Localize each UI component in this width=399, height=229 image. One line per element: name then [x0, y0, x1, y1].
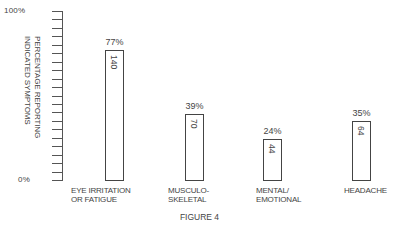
y-tick	[52, 172, 63, 173]
category-label-2: MENTAL/ EMOTIONAL	[256, 186, 301, 204]
bar-count-label: 64	[356, 126, 366, 135]
bar: 64	[352, 121, 371, 181]
category-label-0: EYE IRRITATION OR FATIGUE	[71, 186, 131, 204]
figure-caption: FIGURE 4	[0, 212, 399, 222]
y-tick	[52, 146, 63, 147]
bar-percent-label: 77%	[95, 37, 135, 47]
y-tick	[52, 53, 63, 54]
y-tick	[52, 121, 63, 122]
y-tick	[52, 87, 63, 88]
y-tick	[52, 180, 63, 181]
bar-percent-label: 35%	[342, 108, 382, 118]
y-tick	[52, 45, 63, 46]
y-tick	[52, 104, 63, 105]
y-tick	[52, 11, 63, 12]
y-tick	[52, 79, 63, 80]
y-tick	[52, 28, 63, 29]
y-max-label: 100%	[4, 6, 25, 15]
y-tick	[52, 96, 63, 97]
y-tick	[52, 155, 63, 156]
y-axis-title: PERCENTAGE REPORTING INDICATED SYMPTOMS	[22, 36, 42, 138]
bar-percent-label: 24%	[253, 126, 293, 136]
bar: 140	[105, 50, 124, 181]
y-tick	[52, 138, 63, 139]
bar-percent-label: 39%	[175, 101, 215, 111]
y-tick	[52, 112, 63, 113]
y-tick	[52, 36, 63, 37]
y-tick	[52, 70, 63, 71]
category-label-1: MUSCULO- SKELETAL	[168, 186, 209, 204]
y-tick	[52, 19, 63, 20]
bar: 70	[185, 114, 204, 181]
y-tick	[52, 129, 63, 130]
bar-count-label: 70	[189, 119, 199, 128]
category-label-3: HEADACHE	[344, 186, 387, 195]
y-tick	[52, 163, 63, 164]
bar-count-label: 44	[267, 144, 277, 153]
y-min-label: 0%	[18, 175, 30, 184]
bar-count-label: 140	[109, 55, 119, 69]
bar: 44	[263, 139, 282, 181]
y-tick	[52, 62, 63, 63]
